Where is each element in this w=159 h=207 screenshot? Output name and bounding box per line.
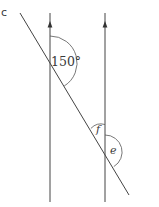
figure-corner-label: c	[1, 7, 7, 18]
angle-e-label: e	[110, 145, 117, 156]
left-arrowhead-icon	[48, 21, 53, 28]
angle-150-label: 150°	[51, 56, 81, 69]
angle-f-label: f	[96, 124, 100, 135]
transversal-line	[20, 13, 129, 195]
parallel-lines-diagram	[0, 0, 159, 207]
right-arrowhead-icon	[103, 21, 108, 28]
